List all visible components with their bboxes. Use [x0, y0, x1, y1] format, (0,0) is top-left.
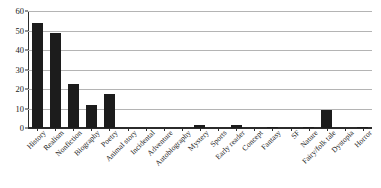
- y-tick-label-30: 30: [16, 65, 29, 74]
- y-tick-label-0: 0: [20, 124, 28, 133]
- bar-slot: [155, 11, 173, 128]
- bar-slot: [245, 11, 263, 128]
- bar: [321, 110, 332, 128]
- y-tick-label-50: 50: [16, 26, 29, 35]
- x-axis-label-horror: Horror: [353, 129, 373, 149]
- bar-slot: [281, 11, 299, 128]
- bar-slot: [119, 11, 137, 128]
- bar-slot: [46, 11, 64, 128]
- bar: [68, 84, 79, 128]
- bar-slot: [191, 11, 209, 128]
- bar-slot: [173, 11, 191, 128]
- plot-area: 0102030405060: [28, 11, 372, 128]
- x-axis-label-sf: SF: [289, 129, 300, 140]
- y-tick-label-20: 20: [16, 85, 29, 94]
- bar-slot: [354, 11, 372, 128]
- x-axis-labels-group: HistoryRealismNonfictionBiographyPoetryA…: [28, 129, 372, 188]
- bar: [32, 23, 43, 128]
- bar-slot: [263, 11, 281, 128]
- bars-group: [28, 11, 372, 128]
- bar-slot: [28, 11, 46, 128]
- bar-slot: [318, 11, 336, 128]
- bar-slot: [137, 11, 155, 128]
- bar: [104, 94, 115, 128]
- bar: [86, 105, 97, 128]
- bar-slot: [300, 11, 318, 128]
- bar: [50, 33, 61, 128]
- bar-chart: 0102030405060 HistoryRealismNonfictionBi…: [0, 0, 381, 188]
- y-tick-label-10: 10: [16, 104, 29, 113]
- bar-slot: [209, 11, 227, 128]
- y-tick-label-60: 60: [16, 7, 29, 16]
- y-tick-label-40: 40: [16, 46, 29, 55]
- bar-slot: [64, 11, 82, 128]
- bar-slot: [100, 11, 118, 128]
- bar-slot: [336, 11, 354, 128]
- bar-slot: [227, 11, 245, 128]
- bar-slot: [82, 11, 100, 128]
